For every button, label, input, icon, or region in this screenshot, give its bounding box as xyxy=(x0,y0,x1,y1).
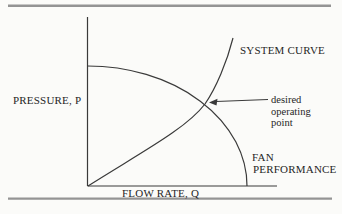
operating-point-annotation-line2: operating xyxy=(271,106,311,117)
y-axis-label: PRESSURE, P xyxy=(13,94,81,106)
fan-performance-label-line1: FAN xyxy=(252,151,274,163)
fan-performance-label-line2: PERFORMANCE xyxy=(253,163,337,175)
left-arrowhead-icon xyxy=(209,99,218,106)
operating-point-annotation-line3: point xyxy=(271,117,293,128)
operating-point-annotation-line1: desired xyxy=(271,94,302,105)
fan-performance-curve xyxy=(88,66,248,186)
figure-page: PRESSURE, P FLOW RATE, Q SYSTEM CURVE FA… xyxy=(0,0,342,214)
figure-svg: PRESSURE, P FLOW RATE, Q SYSTEM CURVE FA… xyxy=(0,0,342,214)
annotation-arrow-line xyxy=(216,100,268,102)
x-axis-label: FLOW RATE, Q xyxy=(122,187,199,199)
system-curve xyxy=(88,38,233,186)
system-curve-label: SYSTEM CURVE xyxy=(240,44,325,56)
